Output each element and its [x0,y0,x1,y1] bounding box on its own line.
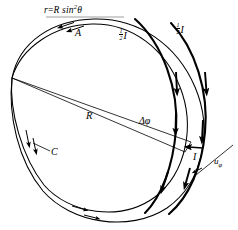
velocity-subscript: φ [219,161,223,168]
figure-root: r=R sin2θ A 1 2 I 1 2 I R Δφ C I uφ [0,0,238,230]
fraction-one-half-left: 1 2 [119,28,123,42]
arrow-inner-current-2 [176,112,177,132]
fraction-numerator: 1 [119,28,123,35]
curve-c-label: C [51,147,58,157]
equation-angle: θ [77,5,82,15]
arrow-outer-current [205,72,207,92]
equation-expression: R sin [53,5,73,15]
radial-line-upper [12,78,191,142]
fraction-denominator: 2 [119,35,123,42]
arrow-outer-lowerleft [33,138,36,152]
half-current-right-label: 1 2 I [176,20,184,36]
fraction-denominator: 2 [176,29,180,36]
fraction-numerator: 1 [176,22,180,29]
velocity-label: uφ [214,157,222,168]
half-current-left-label: 1 2 I [119,26,127,42]
radial-line-lower [12,78,185,152]
current-label: I [193,152,196,162]
equation-label: r=R sin2θ [44,4,82,16]
fraction-unit: I [181,24,184,35]
arrow-inner-current [176,72,177,92]
fraction-unit: I [124,30,127,41]
fraction-one-half-right: 1 2 [176,22,180,36]
arrow-outer-current-3 [185,168,190,186]
radius-label: R [86,111,92,122]
arrow-outer-current-2 [202,120,203,140]
curve-a-label: A [75,28,81,38]
delta-phi-label: Δφ [139,116,150,126]
arrow-inner-lowerleft [26,130,29,145]
arrow-inner-bottom [72,206,86,210]
current-vector-arrow [188,147,203,148]
